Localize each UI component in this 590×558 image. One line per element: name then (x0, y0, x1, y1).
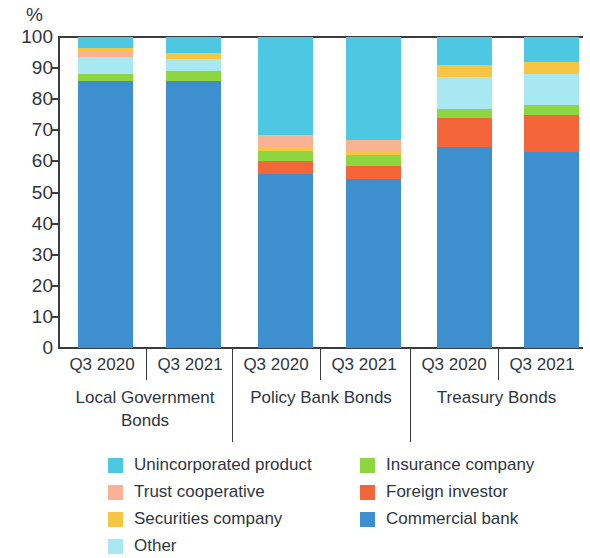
legend-label: Foreign investor (386, 482, 508, 502)
bar-segment[interactable] (166, 81, 221, 348)
y-axis-tick-label: 40 (1, 214, 53, 233)
bar[interactable] (524, 37, 579, 348)
legend-label: Trust cooperative (134, 482, 265, 502)
legend-label: Commercial bank (386, 509, 518, 529)
legend-item[interactable]: Foreign investor (360, 479, 590, 505)
bar[interactable] (166, 37, 221, 348)
bar-segment[interactable] (437, 65, 492, 77)
x-axis-period-label: Q3 2021 (320, 349, 408, 380)
y-axis-tick-label: 100 (1, 27, 53, 46)
bar-segment[interactable] (346, 140, 401, 152)
bar-segment[interactable] (437, 37, 492, 65)
legend-column-left: Unincorporated productTrust cooperativeS… (108, 452, 343, 558)
x-axis-group-label-line2: Bonds (58, 409, 232, 432)
plot-area (60, 37, 583, 348)
x-axis-period-label: Q3 2020 (232, 349, 320, 380)
chart-legend: Unincorporated productTrust cooperativeS… (108, 452, 578, 537)
y-axis-tick-mark (51, 67, 58, 69)
bar-segment[interactable] (524, 74, 579, 105)
bar-segment[interactable] (524, 115, 579, 152)
legend-item[interactable]: Securities company (108, 506, 343, 532)
legend-swatch-icon (108, 485, 123, 500)
bar-segment[interactable] (437, 147, 492, 348)
bar-segment[interactable] (524, 152, 579, 348)
bar-segment[interactable] (166, 71, 221, 80)
x-axis-period-label: Q3 2020 (410, 349, 498, 380)
bar-segment[interactable] (166, 59, 221, 71)
bar-segment[interactable] (258, 174, 313, 348)
x-axis-group-label-line1: Local Government (58, 386, 232, 409)
legend-swatch-icon (108, 512, 123, 527)
bar-segment[interactable] (437, 109, 492, 118)
legend-label: Unincorporated product (134, 455, 312, 475)
y-axis-tick-label: 30 (1, 245, 53, 264)
x-axis-group-label: Treasury Bonds (410, 380, 583, 442)
bar[interactable] (78, 37, 133, 348)
x-axis-group-label-line1: Treasury Bonds (410, 386, 583, 409)
legend-swatch-icon (360, 512, 375, 527)
y-axis-tick-mark (51, 316, 58, 318)
y-axis-tick-label: 90 (1, 58, 53, 77)
x-axis-group-row: Local GovernmentBondsPolicy Bank BondsTr… (58, 380, 583, 442)
bar[interactable] (437, 37, 492, 348)
bar-segment[interactable] (166, 37, 221, 53)
x-axis-period-label: Q3 2021 (498, 349, 586, 380)
bar-segment[interactable] (346, 155, 401, 166)
legend-label: Insurance company (386, 455, 534, 475)
x-axis-period-label: Q3 2020 (58, 349, 146, 380)
y-axis-tick-label: 0 (1, 338, 53, 357)
bar-segment[interactable] (78, 37, 133, 48)
bar-segment[interactable] (258, 161, 313, 173)
y-axis-tick-mark (51, 254, 58, 256)
bar[interactable] (346, 37, 401, 348)
x-axis-separator (320, 349, 321, 380)
y-axis-tick-mark (51, 223, 58, 225)
x-axis-separator (146, 349, 147, 380)
x-axis-separator (232, 349, 233, 442)
legend-swatch-icon (108, 539, 123, 554)
legend-item[interactable]: Other (108, 533, 343, 558)
y-axis-tick-label: 20 (1, 276, 53, 295)
y-axis-tick-mark (51, 160, 58, 162)
x-axis-separator (498, 349, 499, 380)
bar-segment[interactable] (346, 166, 401, 178)
y-axis-tick-label: 50 (1, 183, 53, 202)
legend-swatch-icon (360, 458, 375, 473)
legend-item[interactable]: Commercial bank (360, 506, 590, 532)
x-axis-group-label: Policy Bank Bonds (232, 380, 410, 442)
y-axis-tick-label: 10 (1, 307, 53, 326)
legend-label: Securities company (134, 509, 282, 529)
y-axis-tick-mark (51, 129, 58, 131)
x-axis-labels: Q3 2020Q3 2021Q3 2020Q3 2021Q3 2020Q3 20… (58, 349, 583, 444)
bar[interactable] (258, 37, 313, 348)
y-axis-tick-mark (51, 98, 58, 100)
x-axis-period-label: Q3 2021 (146, 349, 234, 380)
y-axis-tick-label: 80 (1, 89, 53, 108)
y-axis-tick-label: 70 (1, 120, 53, 139)
y-axis-tick-label: 60 (1, 151, 53, 170)
y-axis-tick-mark (51, 285, 58, 287)
bar-segment[interactable] (78, 57, 133, 74)
bar-segment[interactable] (258, 151, 313, 162)
legend-swatch-icon (360, 485, 375, 500)
legend-column-right: Insurance companyForeign investorCommerc… (360, 452, 590, 533)
y-axis-tick-labels: 1009080706050403020100 (0, 0, 53, 539)
legend-item[interactable]: Unincorporated product (108, 452, 343, 478)
bar-segment[interactable] (437, 77, 492, 108)
x-axis-separator (410, 349, 411, 442)
legend-item[interactable]: Insurance company (360, 452, 590, 478)
bar-segment[interactable] (258, 135, 313, 147)
x-axis-group-label: Local GovernmentBonds (58, 380, 232, 442)
bar-segment[interactable] (346, 179, 401, 348)
legend-label: Other (134, 536, 177, 556)
bar-segment[interactable] (524, 105, 579, 114)
bar-segment[interactable] (346, 37, 401, 140)
bar-segment[interactable] (437, 118, 492, 148)
bar-segment[interactable] (258, 37, 313, 135)
legend-item[interactable]: Trust cooperative (108, 479, 343, 505)
bar-segment[interactable] (524, 62, 579, 74)
y-axis-tick-mark (51, 192, 58, 194)
bar-segment[interactable] (524, 37, 579, 62)
bar-segment[interactable] (78, 81, 133, 348)
